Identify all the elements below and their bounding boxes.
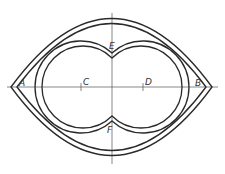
label-b: B <box>195 78 201 88</box>
diagram-canvas: A C D B E F <box>0 0 225 174</box>
label-c: C <box>83 77 90 87</box>
label-f: F <box>107 125 113 135</box>
label-e: E <box>109 41 115 51</box>
label-d: D <box>145 77 152 87</box>
label-a: A <box>18 78 25 88</box>
technical-drawing: A C D B E F <box>0 0 225 174</box>
